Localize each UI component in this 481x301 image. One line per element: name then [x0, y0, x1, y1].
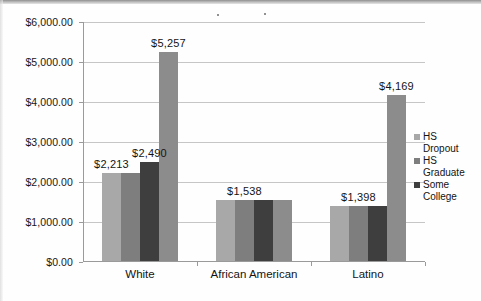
y-axis-tick: [79, 262, 83, 263]
y-axis-tick-label: $3,000.00: [25, 136, 73, 148]
bar-chart: $0.00$1,000.00$2,000.00$3,000.00$4,000.0…: [0, 0, 481, 301]
y-axis-tick-label: $1,000.00: [25, 216, 73, 228]
legend-item-label: HSDropout: [423, 131, 459, 154]
y-axis-tick-label: $6,000.00: [25, 16, 73, 28]
x-axis-tick: [197, 262, 198, 266]
scan-edge-top: [0, 0, 481, 4]
legend-item-label: HSGraduate: [423, 155, 465, 178]
x-axis-labels: WhiteAfrican AmericanLatino: [83, 268, 425, 290]
plot-frame: [83, 22, 425, 262]
y-axis-tick-label: $0.00: [46, 256, 73, 268]
legend-swatch-icon: [414, 134, 420, 140]
x-axis-tick: [311, 262, 312, 266]
y-axis-labels: $0.00$1,000.00$2,000.00$3,000.00$4,000.0…: [0, 22, 79, 262]
legend-item-label: SomeCollege: [423, 179, 457, 202]
legend-item[interactable]: HSDropout: [414, 131, 481, 154]
legend-swatch-icon: [414, 182, 420, 188]
scan-artifact-dot: [217, 14, 219, 16]
legend-item[interactable]: HSGraduate: [414, 155, 481, 178]
x-axis-tick: [425, 262, 426, 266]
y-axis-tick-label: $5,000.00: [25, 56, 73, 68]
x-axis-category-label: Latino: [352, 268, 383, 280]
legend-item[interactable]: SomeCollege: [414, 179, 481, 202]
scan-artifact-dot: [264, 13, 266, 15]
x-axis-category-label: White: [125, 268, 154, 280]
chart-legend: HSDropoutHSGraduateSomeCollege: [414, 131, 481, 203]
y-axis-tick-label: $4,000.00: [25, 96, 73, 108]
plot-area: $2,213$2,490$5,257$1,538$1,398$4,169: [83, 22, 425, 262]
y-axis-tick-label: $2,000.00: [25, 176, 73, 188]
legend-swatch-icon: [414, 158, 420, 164]
x-axis-category-label: African American: [211, 268, 298, 280]
